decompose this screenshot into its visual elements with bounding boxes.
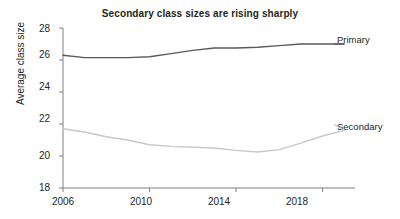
series-lines [63,44,344,152]
label-connector-secondary [334,124,344,130]
plot-area [0,0,400,219]
chart-container: Secondary class sizes are rising sharply… [0,0,400,219]
axes [63,28,355,188]
label-connectors [334,44,344,130]
series-line-secondary [63,129,344,152]
x-axis-ticks [63,188,323,192]
y-axis-ticks [59,28,63,188]
series-line-primary [63,44,344,58]
